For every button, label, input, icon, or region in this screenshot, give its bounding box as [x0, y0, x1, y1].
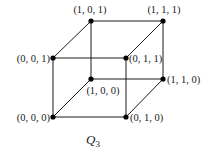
- hypercube-q3-diagram: (0, 0, 0)(0, 0, 1)(0, 1, 0)(0, 1, 1)(1, …: [0, 0, 205, 149]
- vertex-010: [123, 114, 128, 119]
- vertices-group: [50, 18, 165, 119]
- vertex-label-110: (1, 1, 0): [167, 74, 201, 86]
- vertex-100: [88, 76, 93, 81]
- vertex-label-010: (0, 1, 0): [130, 112, 164, 124]
- vertex-label-101: (1, 0, 1): [73, 4, 107, 16]
- vertex-labels-group: (0, 0, 0)(0, 0, 1)(0, 1, 0)(0, 1, 1)(1, …: [17, 4, 201, 124]
- vertex-label-111: (1, 1, 1): [147, 4, 181, 16]
- vertex-label-001: (0, 0, 1): [17, 53, 51, 65]
- vertex-000: [50, 114, 55, 119]
- vertex-110: [160, 76, 165, 81]
- vertex-011: [123, 55, 128, 60]
- vertex-label-011: (0, 1, 1): [129, 53, 163, 65]
- edge-001-101: [53, 21, 91, 58]
- vertex-label-100: (1, 0, 0): [86, 85, 120, 97]
- vertex-101: [88, 18, 93, 23]
- edges-group: [53, 21, 163, 117]
- graph-title-subscript: 3: [95, 139, 100, 149]
- vertex-111: [160, 18, 165, 23]
- vertex-label-000: (0, 0, 0): [17, 112, 51, 124]
- edge-000-100: [53, 79, 91, 117]
- graph-title: Q3: [86, 132, 100, 149]
- vertex-001: [50, 55, 55, 60]
